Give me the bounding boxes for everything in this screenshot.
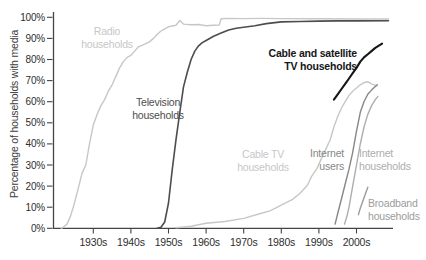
x-tick-label: 1950s [155,236,183,248]
series-label-cable_satellite_tv_households: Cable and satelliteTV households [269,47,358,72]
x-tick-label: 1970s [230,236,258,248]
series-label-line: households [81,38,133,50]
series-label-radio_households: Radiohouseholds [81,25,133,50]
x-tick-label: 1960s [192,236,220,248]
x-tick-label: 1980s [267,236,295,248]
series-label-cable_tv_households: Cable TVhouseholds [237,148,289,173]
series-label-line: Internet [310,147,344,159]
series-label-line: Cable and satellite [269,47,358,59]
y-tick-label: 20% [26,181,46,192]
series-label-line: users [319,160,344,172]
series-label-internet_users: Internetusers [310,147,344,172]
x-tick-label: 1940s [117,236,145,248]
series-line-broadband_households [358,187,367,214]
series-label-television_households: Televisionhouseholds [132,96,184,121]
series-label-line: Television [136,96,180,108]
series-label-line: Broadband [368,197,418,209]
y-tick-label: 30% [26,160,46,171]
series-label-line: households [368,210,420,222]
media-adoption-line-chart: 0%10%20%30%40%50%60%70%80%90%100%1930s19… [0,0,426,260]
series-label-line: Internet [359,147,393,159]
x-tick-label: 2000s [343,236,371,248]
y-tick-label: 10% [26,202,46,213]
x-tick-label: 1990s [305,236,333,248]
series-label-line: TV households [284,60,357,72]
y-tick-label: 60% [26,96,46,107]
x-tick-label: 1930s [79,236,107,248]
y-tick-label: 70% [26,75,46,86]
y-tick-label: 100% [20,12,45,23]
series-label-line: households [132,109,184,121]
series-label-line: households [237,161,289,173]
series-label-line: Cable TV [242,148,284,160]
y-tick-label: 90% [26,33,46,44]
chart-canvas: Percentage of households with media 0%10… [0,0,426,260]
y-tick-label: 0% [31,223,45,234]
series-label-line: Radio [94,25,121,37]
y-tick-label: 80% [26,54,46,65]
series-label-internet_households: Internethouseholds [359,147,411,172]
y-tick-label: 50% [26,117,46,128]
y-tick-label: 40% [26,138,46,149]
series-label-broadband_households: Broadbandhouseholds [368,197,420,222]
series-label-line: households [359,160,411,172]
